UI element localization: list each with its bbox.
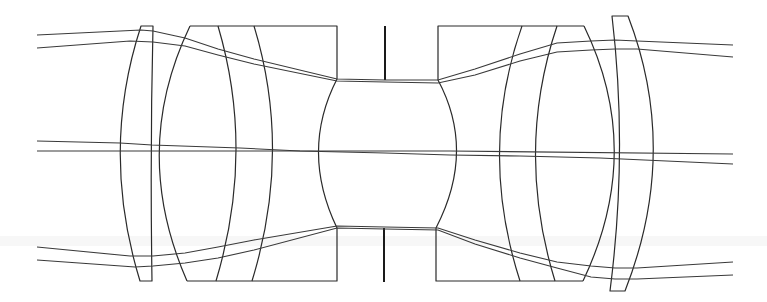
lens-diagram xyxy=(0,0,767,302)
axial-chief-bundle xyxy=(37,141,733,164)
aperture-stop xyxy=(384,26,385,282)
